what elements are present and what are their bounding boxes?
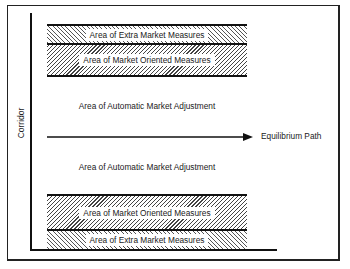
equilibrium-path-arrow	[47, 132, 257, 142]
band-top-extra-market: Area of Extra Market Measures	[47, 24, 247, 44]
corridor-axis-label: Corridor	[16, 108, 26, 139]
horizontal-axis	[30, 249, 277, 251]
equilibrium-path-label: Equilibrium Path	[261, 131, 321, 141]
vertical-axis	[30, 13, 32, 251]
automatic-adjustment-lower-label: Area of Automatic Market Adjustment	[47, 162, 247, 172]
band-label: Area of Extra Market Measures	[86, 234, 209, 246]
band-label: Area of Market Oriented Measures	[79, 54, 214, 66]
band-label: Area of Extra Market Measures	[86, 29, 209, 41]
automatic-adjustment-upper-label: Area of Automatic Market Adjustment	[47, 101, 247, 111]
band-label: Area of Market Oriented Measures	[79, 207, 214, 219]
band-top-market-oriented: Area of Market Oriented Measures	[47, 43, 247, 77]
band-bottom-extra-market: Area of Extra Market Measures	[47, 231, 247, 249]
band-bottom-market-oriented: Area of Market Oriented Measures	[47, 194, 247, 231]
